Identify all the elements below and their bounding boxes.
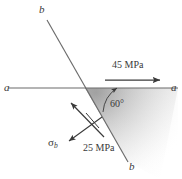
shear-stress-label: 25 MPa: [83, 143, 114, 153]
sigma-b-arrow: [69, 117, 102, 141]
angle-label: 60°: [110, 99, 124, 109]
axis-label-b-bottom: b: [129, 161, 135, 172]
stress-element-figure: a a b b 60° 45 MPa 25 MPa σb: [0, 0, 182, 179]
sigma-b-label: σb: [48, 137, 58, 150]
sigma-subscript: b: [54, 141, 58, 150]
axis-label-a-right: a: [171, 82, 177, 93]
axis-label-a-left: a: [4, 82, 10, 93]
normal-stress-label: 45 MPa: [112, 60, 143, 70]
axis-label-b-top: b: [39, 4, 45, 15]
